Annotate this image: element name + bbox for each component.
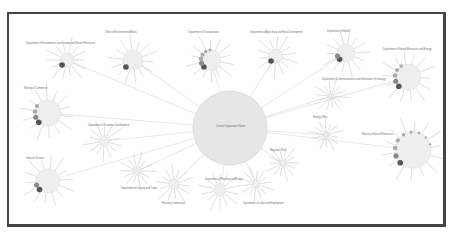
sub-unit-dot [393, 153, 398, 158]
org-node[interactable] [169, 179, 179, 189]
sub-unit-dot [393, 146, 398, 151]
node-label: Ministry of Natural Resources [362, 133, 393, 136]
node-label: Energy Office [313, 116, 327, 119]
sub-unit-dot [33, 115, 38, 120]
sub-unit-dot [410, 131, 413, 134]
sub-unit-dot [201, 53, 205, 57]
sub-unit-dot [393, 79, 398, 84]
sub-unit-dot [34, 182, 39, 187]
sub-unit-dot [59, 62, 65, 68]
sub-unit-dot [429, 143, 431, 145]
sub-unit-dot [399, 64, 403, 68]
sub-unit-dot [123, 64, 129, 70]
node-label: Department of Communications and Informa… [322, 78, 386, 81]
node-label: Department of Transportation [188, 31, 219, 34]
org-node[interactable] [280, 160, 286, 166]
node-label: Department of Health [327, 30, 350, 33]
center-node[interactable] [193, 91, 267, 165]
org-node[interactable] [253, 181, 259, 187]
node-label: Department of Labor and Employment [243, 202, 284, 205]
sub-unit-dot [395, 68, 399, 72]
sub-unit-dot [268, 58, 274, 64]
org-node[interactable] [99, 136, 109, 146]
sub-unit-dot [208, 49, 211, 52]
node-label: Department of Environment Conservation a… [26, 42, 95, 45]
sub-unit-dot [396, 83, 402, 89]
node-label: Planning Commission [162, 202, 185, 205]
center-label: Central Organization Name [216, 125, 245, 128]
node-label: Department of Industry and Trade [121, 187, 157, 190]
sub-unit-dot [199, 61, 204, 66]
node-label: Ministry of Commerce [24, 87, 47, 90]
network-diagram [0, 0, 458, 236]
node-label: General Services [26, 157, 44, 160]
sub-unit-dot [199, 57, 204, 62]
sub-unit-dot [33, 109, 38, 114]
org-node[interactable] [329, 94, 333, 98]
node-label: Department of Natural Resources and Ener… [383, 48, 431, 51]
org-node[interactable] [133, 167, 141, 175]
sub-unit-dot [335, 53, 340, 58]
sub-unit-dot [393, 73, 398, 78]
node-label: Office of Environmental Affairs [105, 31, 137, 34]
sub-unit-dot [397, 160, 403, 166]
org-node[interactable] [324, 133, 328, 137]
sub-unit-dot [425, 136, 427, 138]
sub-unit-dot [396, 138, 400, 142]
node-label: Department of Agriculture and Rural Deve… [250, 31, 303, 34]
sub-unit-dot [204, 50, 208, 54]
org-node[interactable] [214, 184, 226, 196]
node-label: Department of Economic Development [88, 124, 129, 127]
node-label: Department of Planning and Budget [205, 178, 243, 181]
sub-unit-dot [35, 104, 39, 108]
node-label: Regional Office [270, 149, 286, 152]
sub-unit-dot [418, 132, 421, 135]
sub-unit-dot [37, 187, 43, 193]
sub-unit-dot [402, 133, 406, 137]
sub-unit-dot [36, 119, 42, 125]
